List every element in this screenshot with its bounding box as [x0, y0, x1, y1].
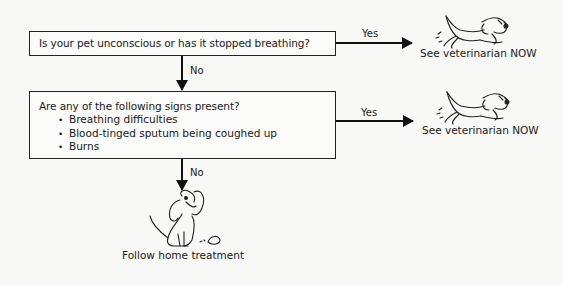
- question-box-2: Are any of the following signs present? …: [29, 91, 336, 159]
- result-home-treatment: Follow home treatment: [122, 249, 244, 261]
- yes-label-1: Yes: [362, 28, 378, 39]
- sitting-dog-icon: [140, 188, 230, 250]
- running-dog-icon: [432, 12, 514, 50]
- no-label-2: No: [190, 167, 204, 178]
- question-2-text: Are any of the following signs present?: [39, 100, 239, 112]
- result-see-vet-1: See veterinarian NOW: [420, 47, 537, 59]
- sign-item: Burns: [58, 140, 277, 154]
- result-see-vet-2: See veterinarian NOW: [422, 124, 539, 136]
- no-label-1: No: [190, 65, 204, 76]
- running-dog-icon: [433, 88, 515, 126]
- question-1-text: Is your pet unconscious or has it stoppe…: [39, 37, 310, 49]
- yes-label-2: Yes: [361, 107, 377, 118]
- signs-list: Breathing difficulties Blood-tinged sput…: [58, 113, 277, 154]
- question-box-1: Is your pet unconscious or has it stoppe…: [29, 31, 336, 56]
- sign-item: Breathing difficulties: [58, 113, 277, 127]
- sign-item: Blood-tinged sputum being coughed up: [58, 127, 277, 141]
